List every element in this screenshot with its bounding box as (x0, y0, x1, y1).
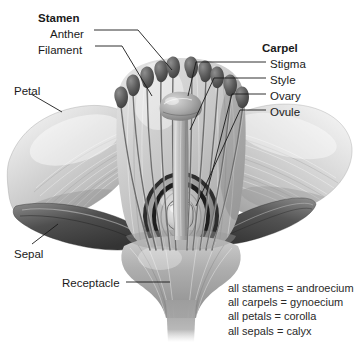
flower-anatomy-figure: Stamen Anther Filament Petal Sepal Recep… (0, 0, 362, 342)
receptacle (121, 236, 240, 342)
glossary-line: all petals = corolla (228, 309, 354, 323)
label-sepal: Sepal (14, 248, 43, 261)
label-carpel: Carpel (262, 42, 298, 55)
glossary-block: all stamens = androecium all carpels = g… (228, 281, 354, 338)
label-petal: Petal (14, 85, 40, 98)
label-ovule: Ovule (270, 106, 300, 119)
label-stigma: Stigma (270, 58, 306, 71)
label-style: Style (270, 74, 296, 87)
label-filament: Filament (38, 44, 82, 57)
label-receptacle: Receptacle (62, 277, 120, 290)
label-stamen: Stamen (38, 12, 80, 25)
label-anther: Anther (50, 28, 84, 41)
label-ovary: Ovary (270, 90, 301, 103)
glossary-line: all stamens = androecium (228, 281, 354, 295)
glossary-line: all sepals = calyx (228, 324, 354, 338)
stigma (160, 92, 202, 121)
glossary-line: all carpels = gynoecium (228, 295, 354, 309)
